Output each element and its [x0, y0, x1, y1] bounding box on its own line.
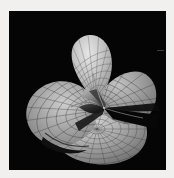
branch-point-marker [103, 107, 105, 109]
plot-canvas [9, 11, 166, 170]
riemann-surface-plot [9, 11, 166, 170]
figure-frame: Riemann surface Grayscale 3D wireframe r… [0, 0, 174, 178]
scan-artifact-line [157, 50, 164, 51]
